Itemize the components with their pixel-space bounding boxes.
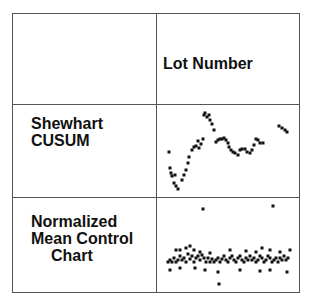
data-point bbox=[221, 258, 224, 261]
data-point bbox=[185, 247, 188, 250]
data-point bbox=[189, 245, 192, 248]
data-point bbox=[281, 259, 284, 262]
data-point bbox=[269, 269, 272, 272]
data-point bbox=[275, 257, 278, 260]
normalized-mean-plot bbox=[0, 0, 311, 302]
data-point bbox=[179, 267, 182, 270]
data-point bbox=[257, 259, 260, 262]
data-point bbox=[201, 254, 204, 257]
data-point bbox=[173, 257, 176, 260]
data-point bbox=[199, 251, 202, 254]
data-point bbox=[169, 269, 172, 272]
data-point bbox=[199, 259, 202, 262]
data-point bbox=[283, 255, 286, 258]
data-point bbox=[219, 261, 222, 264]
data-point bbox=[175, 249, 178, 252]
data-point bbox=[269, 257, 272, 260]
data-point bbox=[183, 257, 186, 260]
data-point bbox=[265, 259, 268, 262]
data-point bbox=[272, 205, 275, 208]
data-point bbox=[261, 257, 264, 260]
data-point bbox=[185, 261, 188, 264]
data-point bbox=[177, 259, 180, 262]
data-point bbox=[203, 257, 206, 260]
data-point bbox=[204, 269, 207, 272]
data-point bbox=[231, 255, 234, 258]
data-point bbox=[243, 261, 246, 264]
data-point bbox=[249, 255, 252, 258]
data-point bbox=[187, 253, 190, 256]
data-point bbox=[179, 249, 182, 252]
data-point bbox=[191, 255, 194, 258]
data-point bbox=[286, 271, 289, 274]
data-point bbox=[218, 283, 221, 286]
data-point bbox=[253, 257, 256, 260]
data-point bbox=[202, 208, 205, 211]
data-point bbox=[239, 255, 242, 258]
data-point bbox=[193, 249, 196, 252]
data-point bbox=[235, 261, 238, 264]
data-point bbox=[217, 271, 220, 274]
data-point bbox=[247, 259, 250, 262]
data-point bbox=[194, 267, 197, 270]
data-point bbox=[209, 252, 212, 255]
data-point bbox=[277, 261, 280, 264]
data-point bbox=[193, 261, 196, 264]
data-point bbox=[269, 249, 272, 252]
data-point bbox=[223, 255, 226, 258]
data-point bbox=[189, 258, 192, 261]
data-point bbox=[205, 261, 208, 264]
data-point bbox=[179, 255, 182, 258]
data-point bbox=[259, 270, 262, 273]
data-point bbox=[229, 249, 232, 252]
data-point bbox=[279, 251, 282, 254]
data-point bbox=[211, 258, 214, 261]
data-point bbox=[255, 251, 258, 254]
data-point bbox=[289, 249, 292, 252]
data-point bbox=[197, 255, 200, 258]
data-point bbox=[217, 257, 220, 260]
data-point bbox=[245, 250, 248, 253]
data-point bbox=[207, 257, 210, 260]
data-point bbox=[171, 261, 174, 264]
data-point bbox=[261, 247, 264, 250]
data-point bbox=[227, 261, 230, 264]
data-point bbox=[239, 269, 242, 272]
data-point bbox=[287, 257, 290, 260]
data-point bbox=[209, 261, 212, 264]
